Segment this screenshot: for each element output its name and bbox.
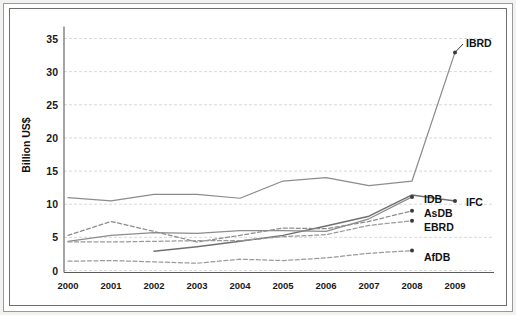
x-tick-label: 2006 [315, 280, 336, 291]
y-tick-label: 25 [46, 99, 58, 111]
x-tick-label: 2007 [358, 280, 379, 291]
series-line-ifc [154, 195, 455, 251]
series-label-idb: IDB [424, 193, 443, 205]
series-label-ifc: IFC [466, 196, 483, 208]
y-tick-label: 15 [46, 165, 58, 177]
end-marker-asdb [410, 209, 414, 213]
y-tick-label: 35 [46, 33, 58, 45]
series-line-afdb [68, 251, 412, 264]
series-labels: IBRDIFCIDBAsDBEBRDAfDB [424, 37, 492, 263]
x-tick-label: 2001 [100, 280, 122, 291]
series-label-ibrd: IBRD [466, 37, 492, 49]
end-marker-afdb [410, 249, 414, 253]
x-tick-label: 2002 [143, 280, 164, 291]
series-label-afdb: AfDB [424, 251, 451, 263]
x-tick-label: 2008 [401, 280, 422, 291]
end-marker-idb [410, 195, 414, 199]
series-leader-lines [455, 44, 463, 52]
x-tick-label: 2003 [186, 280, 207, 291]
figure-frame: 05101520253035 2000200120022003200420052… [0, 0, 516, 315]
y-tick-label: 0 [52, 265, 58, 277]
x-axis-tick-labels: 2000200120022003200420052006200720082009 [57, 280, 465, 291]
series-label-ebrd: EBRD [424, 221, 454, 233]
x-tick-label: 2005 [272, 280, 294, 291]
end-marker-ifc [453, 199, 457, 203]
x-tick-label: 2004 [229, 280, 251, 291]
x-tick-label: 2000 [57, 280, 78, 291]
x-tick-label: 2009 [444, 280, 465, 291]
line-chart: 05101520253035 2000200120022003200420052… [0, 0, 516, 315]
data-series-lines [68, 52, 455, 263]
series-line-ibrd [68, 52, 455, 200]
series-label-asdb: AsDB [424, 207, 453, 219]
y-tick-label: 20 [46, 132, 58, 144]
y-axis-title: Billion US$ [20, 117, 32, 173]
y-tick-label: 30 [46, 66, 58, 78]
series-line-idb [68, 197, 412, 241]
y-axis-tick-labels: 05101520253035 [46, 33, 58, 277]
y-tick-label: 5 [52, 231, 58, 243]
leader-line-ibrd [455, 44, 463, 52]
end-marker-ebrd [410, 219, 414, 223]
y-tick-label: 10 [46, 198, 58, 210]
